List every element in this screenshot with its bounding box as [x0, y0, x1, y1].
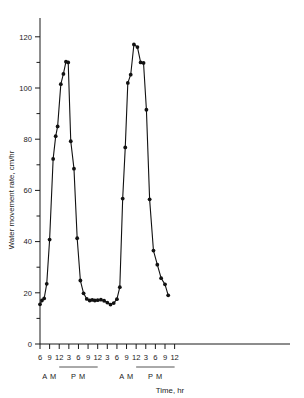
x-tick-label: 9	[124, 353, 128, 362]
data-point	[121, 197, 125, 201]
period-label: A M	[119, 372, 134, 381]
figure-container: 020406080100120 6912369123691236912 A MP…	[0, 0, 304, 398]
y-tick-label: 40	[24, 237, 32, 246]
period-label: A M	[42, 372, 57, 381]
x-tick-label: 3	[144, 353, 148, 362]
data-point	[45, 282, 49, 286]
x-tick-label: 3	[67, 353, 71, 362]
y-tick-label: 120	[19, 33, 32, 42]
data-point	[123, 145, 127, 149]
data-point	[155, 263, 159, 267]
data-point	[142, 61, 146, 65]
period-annotations: A MP MA MP M	[42, 367, 174, 381]
data-point	[148, 197, 152, 201]
data-point	[72, 167, 76, 171]
data-point	[166, 293, 170, 297]
x-tick-label: 12	[55, 353, 63, 362]
y-tick-label: 80	[24, 135, 32, 144]
data-point	[82, 291, 86, 295]
data-point	[112, 301, 116, 305]
x-axis-tick-labels: 6912369123691236912	[38, 353, 179, 362]
data-point	[51, 157, 55, 161]
data-point	[129, 73, 133, 77]
period-label: P M	[148, 372, 163, 381]
data-point	[56, 125, 60, 129]
data-point	[159, 276, 163, 280]
x-tick-label: 9	[163, 353, 167, 362]
x-tick-label: 6	[76, 353, 80, 362]
period-label: P M	[71, 372, 86, 381]
x-tick-label: 6	[115, 353, 119, 362]
y-tick-label: 0	[28, 340, 32, 349]
x-tick-label: 12	[170, 353, 178, 362]
y-tick-label: 60	[24, 186, 32, 195]
x-tick-label: 6	[38, 353, 42, 362]
axes	[40, 18, 290, 344]
data-point	[54, 134, 58, 138]
data-point	[145, 108, 149, 112]
x-tick-label: 12	[93, 353, 101, 362]
data-point	[152, 249, 156, 253]
data-point	[66, 61, 70, 65]
data-series	[38, 43, 170, 307]
line-chart: 020406080100120 6912369123691236912 A MP…	[0, 0, 304, 398]
y-tick-label: 100	[19, 84, 32, 93]
y-axis-title: Water movement rate, cm/hr	[7, 150, 16, 249]
data-point	[136, 45, 140, 49]
data-point	[105, 301, 109, 305]
data-point	[38, 302, 42, 306]
x-tick-label: 12	[132, 353, 140, 362]
x-tick-label: 9	[86, 353, 90, 362]
data-point	[115, 297, 119, 301]
x-tick-label: 9	[47, 353, 51, 362]
y-tick-label: 20	[24, 289, 32, 298]
data-point	[69, 139, 73, 143]
data-point	[78, 279, 82, 283]
data-point	[118, 285, 122, 289]
data-point	[62, 72, 66, 76]
data-point	[102, 299, 106, 303]
data-point	[42, 297, 46, 301]
data-point	[59, 82, 63, 86]
x-axis-title: Time, hr	[156, 386, 185, 395]
data-point	[163, 282, 167, 286]
data-point	[132, 43, 136, 47]
x-tick-label: 3	[105, 353, 109, 362]
data-point	[48, 238, 52, 242]
x-tick-label: 6	[153, 353, 157, 362]
data-point	[96, 298, 100, 302]
data-point	[126, 81, 130, 85]
y-axis-tick-labels: 020406080100120	[19, 33, 32, 349]
data-point	[75, 236, 79, 240]
